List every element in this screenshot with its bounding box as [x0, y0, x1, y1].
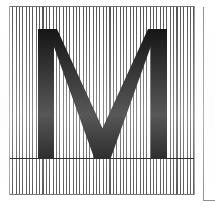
baseline-rule: [9, 158, 195, 159]
adjacent-empty-panel: [203, 7, 215, 201]
glyph-layer: [9, 6, 195, 195]
uppercase-m-glyph: [9, 6, 195, 195]
specimen-plate: [9, 6, 195, 195]
specimen-stage: [0, 0, 215, 208]
